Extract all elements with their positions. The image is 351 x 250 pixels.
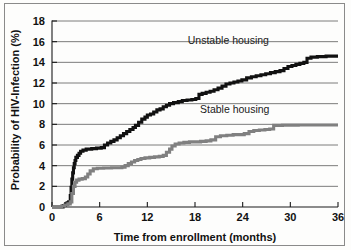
x-axis-title: Time from enrollment (months)	[114, 231, 277, 243]
x-tick-label: 6	[97, 211, 103, 223]
x-tick-label: 12	[141, 211, 153, 223]
x-tick-labels: 061218243036	[49, 211, 344, 223]
x-tick-label: 24	[237, 211, 250, 223]
y-tick-labels: 024681012141618	[33, 15, 46, 213]
y-tick-label: 16	[33, 36, 45, 48]
curve-unstable-housing	[52, 56, 338, 207]
y-tick-label: 4	[39, 160, 46, 172]
annotation-label: Stable housing	[200, 103, 270, 115]
y-tick-label: 14	[33, 56, 46, 68]
y-tick-label: 8	[39, 118, 45, 130]
y-tick-label: 18	[33, 15, 45, 27]
figure-container: 061218243036 024681012141618 Unstable ho…	[0, 0, 351, 250]
gridlines-group	[52, 21, 338, 186]
y-tick-label: 12	[33, 77, 45, 89]
x-tick-label: 36	[332, 211, 344, 223]
axes-group	[52, 21, 338, 208]
x-tick-label: 0	[49, 211, 55, 223]
series-curves	[52, 56, 338, 207]
y-tick-label: 10	[33, 98, 45, 110]
y-tick-label: 2	[39, 180, 45, 192]
tickmarks-group	[52, 21, 338, 207]
x-tick-label: 18	[189, 211, 201, 223]
y-axis-title: Probability of HIV-Infection (%)	[9, 29, 21, 190]
hiv-infection-survival-chart: 061218243036 024681012141618 Unstable ho…	[0, 0, 351, 250]
y-tick-label: 0	[39, 201, 45, 213]
annotation-label: Unstable housing	[188, 34, 269, 46]
x-tick-label: 30	[284, 211, 296, 223]
y-tick-label: 6	[39, 139, 45, 151]
